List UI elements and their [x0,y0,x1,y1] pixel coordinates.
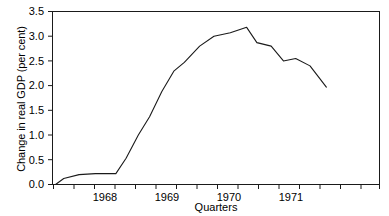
x-axis-title: Quarters [52,201,380,214]
plot-frame [52,11,380,185]
y-axis-ticks [48,12,52,185]
gdp-series-line [56,27,327,184]
gdp-line-chart [0,0,389,216]
y-axis-title: Change in real GDP (per cent) [14,1,28,197]
chart-container: 3.5 3.0 2.5 2.0 1.5 1.0 0.5 0.0 1968 196… [0,0,389,216]
x-axis-ticks [54,185,380,190]
